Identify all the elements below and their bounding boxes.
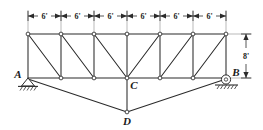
diagonal-members-right — [127, 34, 226, 78]
joint-label-a: A — [13, 68, 21, 80]
horizontal-dimension-arrows — [28, 11, 226, 21]
bay-dimension-label-2: 6' — [74, 12, 80, 21]
bay-dimension-label-3: 6' — [107, 12, 113, 21]
bay-dimension-label-5: 6' — [173, 12, 179, 21]
joint-label-d: D — [122, 115, 131, 127]
truss-diagram-canvas: 6' 6' 6' 6' 6' 6' 8' — [0, 0, 263, 130]
truss-diagram-figure: 6' 6' 6' 6' 6' 6' 8' — [0, 0, 263, 130]
tie-member-a-d — [28, 79, 127, 112]
tie-member-d-b — [127, 79, 226, 112]
underslung-tie-members — [28, 78, 226, 112]
bay-dimension-label-4: 6' — [140, 12, 146, 21]
bay-dimension-label-6: 6' — [206, 12, 212, 21]
joint-label-c: C — [130, 79, 138, 91]
diagonal-members-left — [28, 34, 127, 78]
truss-members — [28, 34, 226, 112]
bay-dimension-label-1: 6' — [41, 12, 47, 21]
truss-height-label: 8' — [243, 52, 249, 61]
joint-label-b: B — [231, 66, 239, 78]
vertical-members — [28, 34, 226, 78]
